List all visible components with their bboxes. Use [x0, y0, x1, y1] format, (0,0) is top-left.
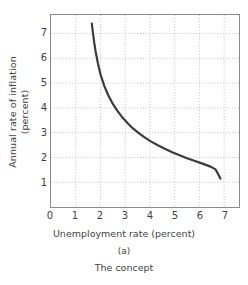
x-tick-label: 0 [42, 210, 58, 222]
x-tick-label: 5 [167, 210, 183, 222]
y-tick-label: 7 [33, 28, 47, 38]
y-axis-tick-labels: 1234567 [33, 0, 47, 285]
panel-label: (a) [0, 246, 248, 256]
x-tick-label: 4 [142, 210, 158, 222]
y-tick-label: 2 [33, 153, 47, 163]
x-tick-label: 3 [117, 210, 133, 222]
y-tick-label: 3 [33, 128, 47, 138]
x-tick-label: 1 [67, 210, 83, 222]
x-tick-label: 7 [217, 210, 233, 222]
y-axis-label-line2: (percent) [19, 56, 31, 168]
phillips-curve-line [51, 15, 239, 207]
x-axis-tick-labels: 01234567 [0, 210, 248, 224]
y-tick-label: 5 [33, 78, 47, 88]
figure-subtitle: The concept [0, 262, 248, 273]
y-tick-label: 6 [33, 53, 47, 63]
x-tick-label: 2 [92, 210, 108, 222]
phillips-curve-figure: Annual rate of inflation (percent) 12345… [0, 0, 248, 285]
plot-area [50, 14, 240, 208]
y-axis-label-line1: Annual rate of inflation [7, 56, 19, 168]
x-axis-label: Unemployment rate (percent) [0, 228, 248, 239]
x-tick-label: 6 [192, 210, 208, 222]
y-tick-label: 4 [33, 103, 47, 113]
y-tick-label: 1 [33, 178, 47, 188]
